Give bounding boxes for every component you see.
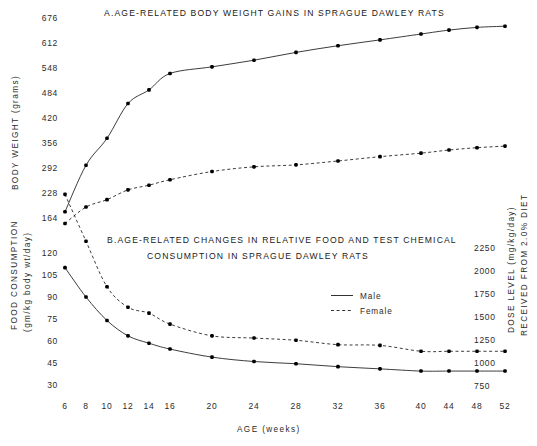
panel-b-y2-axis-label-line1: DOSE LEVEL (mg/kg/day)	[507, 206, 516, 333]
series-line-female	[65, 146, 505, 223]
x-tick-8: 8	[83, 401, 88, 411]
data-point	[503, 369, 507, 373]
data-point	[419, 151, 423, 155]
panel-a-y-tick: 228	[42, 188, 58, 198]
data-point	[336, 343, 340, 347]
data-point	[63, 210, 67, 214]
data-point	[378, 155, 382, 159]
x-tick-12: 12	[123, 401, 134, 411]
data-point	[447, 28, 451, 32]
x-axis: 6810121416202428323640444852 AGE (weeks)	[62, 401, 510, 434]
data-point	[294, 163, 298, 167]
panel-b-y-tick-labels: 3045607590105120	[42, 248, 58, 390]
data-point	[105, 198, 109, 202]
data-point	[419, 369, 423, 373]
panel-a-y-tick: 164	[42, 213, 58, 223]
data-point	[503, 144, 507, 148]
data-point	[475, 349, 479, 353]
data-point	[126, 188, 130, 192]
data-point	[210, 170, 214, 174]
data-point	[147, 88, 151, 92]
series-line-male	[65, 26, 505, 212]
panel-b-y-tick: 75	[47, 314, 58, 324]
data-point	[168, 72, 172, 76]
x-tick-6: 6	[62, 401, 67, 411]
data-point	[252, 336, 256, 340]
figure-container: A.AGE-RELATED BODY WEIGHT GAINS IN SPRAG…	[0, 0, 537, 446]
panel-b-y2-tick: 1250	[474, 335, 496, 345]
series-line-female	[65, 194, 505, 351]
panel-a-y-tick: 484	[42, 88, 58, 98]
data-point	[147, 311, 151, 315]
panel-b-y2-tick: 2250	[474, 243, 496, 253]
data-point	[447, 369, 451, 373]
data-point	[294, 338, 298, 342]
x-tick-44: 44	[444, 401, 455, 411]
x-tick-labels: 6810121416202428323640444852	[62, 401, 510, 411]
x-tick-16: 16	[165, 401, 176, 411]
panel-a-y-tick-labels: 164228292356420484548612676	[42, 13, 58, 223]
panel-b-y-tick: 60	[47, 336, 58, 346]
panel-a: A.AGE-RELATED BODY WEIGHT GAINS IN SPRAG…	[11, 8, 507, 225]
data-point	[63, 222, 67, 226]
x-tick-40: 40	[416, 401, 427, 411]
series-line-male	[65, 268, 505, 372]
data-point	[168, 347, 172, 351]
data-point	[147, 183, 151, 187]
panel-b-y2-tick: 1000	[474, 358, 496, 368]
panel-b-y2-axis-label-line2: RECEIVED FROM 2.0% DIET	[520, 194, 529, 336]
x-axis-label: AGE (weeks)	[237, 425, 301, 434]
data-point	[84, 239, 88, 243]
data-point	[63, 266, 67, 270]
data-point	[252, 58, 256, 62]
data-point	[84, 295, 88, 299]
x-tick-28: 28	[291, 401, 302, 411]
panel-b-y-tick: 30	[47, 380, 58, 390]
panel-b-y2-tick: 2000	[474, 266, 496, 276]
data-point	[210, 65, 214, 69]
x-tick-14: 14	[144, 401, 155, 411]
data-point	[336, 159, 340, 163]
data-point	[63, 193, 67, 197]
panel-b-y2-tick: 750	[474, 381, 490, 391]
panel-b-y-tick: 45	[47, 358, 58, 368]
data-point	[84, 163, 88, 167]
data-point	[105, 319, 109, 323]
panel-b-y-tick: 105	[42, 270, 58, 280]
data-point	[294, 51, 298, 55]
data-point	[378, 367, 382, 371]
data-point	[210, 355, 214, 359]
panel-a-y-tick: 548	[42, 63, 58, 73]
panel-b-y-axis-label-line1: FOOD CONSUMPTION	[10, 220, 19, 330]
panel-b-y2-axis-title: DOSE LEVEL (mg/kg/day) RECEIVED FROM 2.0…	[507, 194, 529, 336]
data-point	[84, 205, 88, 209]
panel-b-title-line2: CONSUMPTION IN SPRAGUE DAWLEY RATS	[147, 251, 369, 261]
data-point	[336, 365, 340, 369]
data-point	[126, 305, 130, 309]
data-point	[475, 26, 479, 30]
panel-a-y-tick: 612	[42, 38, 58, 48]
data-point	[447, 148, 451, 152]
data-point	[503, 349, 507, 353]
panel-b-title-line1: B.AGE-RELATED CHANGES IN RELATIVE FOOD A…	[107, 235, 457, 245]
x-tick-20: 20	[207, 401, 218, 411]
legend: Male Female	[331, 292, 393, 316]
data-point	[210, 334, 214, 338]
data-point	[475, 369, 479, 373]
panel-b-y-axis-title: FOOD CONSUMPTION (gm/kg body wt/day)	[10, 220, 32, 332]
panel-a-y-tick: 356	[42, 138, 58, 148]
panel-b: B.AGE-RELATED CHANGES IN RELATIVE FOOD A…	[10, 193, 529, 391]
panel-b-y-axis-label-line2: (gm/kg body wt/day)	[23, 232, 32, 332]
data-point	[105, 137, 109, 141]
panel-a-y-axis-label: BODY WEIGHT (grams)	[11, 75, 20, 190]
data-point	[336, 44, 340, 48]
panel-b-series-group	[63, 193, 507, 373]
scientific-figure: A.AGE-RELATED BODY WEIGHT GAINS IN SPRAG…	[0, 0, 537, 446]
panel-a-y-tick: 420	[42, 113, 58, 123]
panel-a-title: A.AGE-RELATED BODY WEIGHT GAINS IN SPRAG…	[104, 8, 445, 18]
legend-female-label: Female	[360, 307, 393, 316]
data-point	[378, 38, 382, 42]
x-tick-48: 48	[472, 401, 483, 411]
data-point	[168, 322, 172, 326]
data-point	[294, 362, 298, 366]
